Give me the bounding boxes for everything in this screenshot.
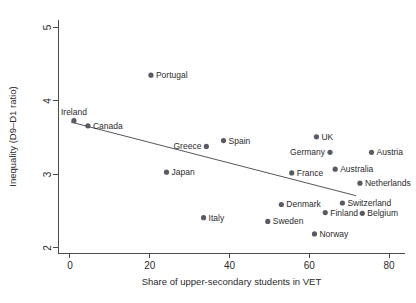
data-point: Netherlands xyxy=(357,178,410,188)
plot-canvas: 2345020406080 PortugalIrelandCanadaGreec… xyxy=(0,0,416,303)
data-point: Norway xyxy=(312,229,349,239)
data-point: Spain xyxy=(221,136,251,146)
point-label: Finland xyxy=(330,208,358,218)
data-point: Germany xyxy=(290,147,333,157)
point-marker xyxy=(340,200,345,205)
data-point: UK xyxy=(314,132,334,142)
point-marker xyxy=(279,202,284,207)
point-label: Ireland xyxy=(61,107,87,117)
x-axis-title: Share of upper-secondary students in VET xyxy=(142,276,322,287)
x-tick-label: 60 xyxy=(304,260,316,271)
point-label: Austria xyxy=(376,147,403,157)
point-label: Australia xyxy=(340,164,373,174)
data-point: Australia xyxy=(333,164,374,174)
regression-line xyxy=(71,122,356,196)
data-point: France xyxy=(289,168,323,178)
point-label: France xyxy=(297,168,324,178)
point-label: Denmark xyxy=(286,199,321,209)
x-tick-label: 40 xyxy=(224,260,236,271)
point-marker xyxy=(314,134,319,139)
point-label: Sweden xyxy=(273,216,304,226)
point-marker xyxy=(201,215,206,220)
data-point: Sweden xyxy=(265,216,304,226)
point-marker xyxy=(327,150,332,155)
y-axis-title: Inequality (D9–D1 ratio) xyxy=(7,86,18,186)
point-label: Netherlands xyxy=(365,178,411,188)
point-marker xyxy=(221,138,226,143)
point-label: Canada xyxy=(93,121,123,131)
point-label: Spain xyxy=(229,136,251,146)
point-marker xyxy=(265,219,270,224)
point-label: Japan xyxy=(171,167,194,177)
data-point: Austria xyxy=(369,147,403,157)
data-point: Greece xyxy=(173,141,208,151)
data-point: Portugal xyxy=(148,70,187,80)
point-marker xyxy=(357,181,362,186)
point-marker xyxy=(204,144,209,149)
point-label: Portugal xyxy=(156,70,188,80)
axis-titles: Share of upper-secondary students in VET… xyxy=(7,86,321,287)
data-point: Switzerland xyxy=(340,198,392,208)
y-tick-label: 5 xyxy=(43,24,54,30)
y-tick-label: 4 xyxy=(43,98,54,104)
y-tick-label: 2 xyxy=(43,245,54,251)
data-point: Denmark xyxy=(279,199,322,209)
point-marker xyxy=(312,231,317,236)
point-marker xyxy=(333,167,338,172)
data-point: Ireland xyxy=(61,107,87,124)
point-label: Belgium xyxy=(367,208,398,218)
point-label: Norway xyxy=(319,229,349,239)
point-label: Switzerland xyxy=(347,198,391,208)
point-marker xyxy=(71,118,76,123)
point-marker xyxy=(369,150,374,155)
scatter-plot-figure: 2345020406080 PortugalIrelandCanadaGreec… xyxy=(0,0,416,303)
point-marker xyxy=(164,170,169,175)
point-marker xyxy=(289,170,294,175)
point-label: Germany xyxy=(290,147,326,157)
data-point: Belgium xyxy=(360,208,398,218)
data-points: PortugalIrelandCanadaGreeceSpainJapanUKG… xyxy=(61,70,411,239)
data-point: Italy xyxy=(201,213,225,223)
data-point: Finland xyxy=(323,208,359,218)
point-label: UK xyxy=(321,132,333,142)
point-marker xyxy=(85,123,90,128)
point-marker xyxy=(323,210,328,215)
point-label: Italy xyxy=(209,213,225,223)
fit-line xyxy=(71,122,356,196)
x-tick-label: 0 xyxy=(67,260,73,271)
data-point: Japan xyxy=(164,167,195,177)
x-tick-label: 80 xyxy=(383,260,395,271)
point-label: Greece xyxy=(173,141,201,151)
point-marker xyxy=(360,211,365,216)
y-tick-label: 3 xyxy=(43,171,54,177)
point-marker xyxy=(148,73,153,78)
x-tick-label: 20 xyxy=(144,260,156,271)
axes: 2345020406080 xyxy=(43,20,406,271)
data-point: Canada xyxy=(85,121,123,131)
